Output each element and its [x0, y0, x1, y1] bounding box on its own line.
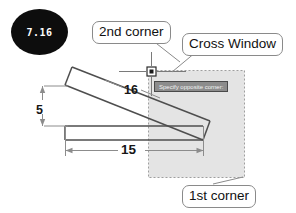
callout-2nd-corner: 2nd corner [92, 21, 171, 44]
dimension-label-15: 15 [121, 142, 136, 157]
dimension-height-5 [40, 86, 68, 126]
figure-number-label: 7.16 [26, 27, 52, 38]
cad-prompt-text: Specify opposite corner: [159, 84, 223, 90]
callout-cross-window: Cross Window [182, 33, 283, 56]
dimension-label-16: 16 [124, 83, 138, 97]
figure-number-badge: 7.16 [11, 9, 68, 55]
cad-prompt-tooltip: Specify opposite corner: [154, 81, 228, 92]
figure-screenshot: 7.16 Specify opposite corner: 16 5 15 2n… [0, 0, 296, 213]
dimension-label-5: 5 [36, 103, 43, 117]
pickbox-icon [147, 67, 156, 76]
callout-1st-corner: 1st corner [182, 185, 256, 208]
